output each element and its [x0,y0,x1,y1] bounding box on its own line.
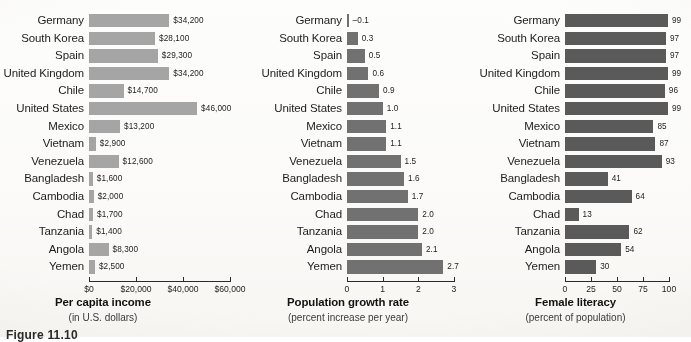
bar-literacy-spain [565,49,666,62]
bar-row: Angola$8,300 [0,241,236,259]
bar-growth-vietnam [347,137,386,150]
bar-literacy-chile [565,84,665,97]
bar-track: 1.5 [347,153,460,171]
bar-track: –0.1 [347,12,460,30]
country-label-south-korea: South Korea [460,30,560,48]
bar-value-label: $13,200 [124,118,154,136]
country-label-venezuela: Venezuela [460,153,560,171]
bar-track: 2.0 [347,206,460,224]
bar-income-bangladesh [89,172,93,185]
bar-growth-chad [347,208,418,221]
bar-row: South Korea$28,100 [0,30,236,48]
bar-growth-united-states [347,102,383,115]
axis-tick-label: 3 [452,284,457,294]
bar-income-chad [89,208,93,221]
bar-growth-bangladesh [347,172,404,185]
bar-value-label: 99 [672,65,681,83]
bar-growth-mexico [347,120,386,133]
bar-income-spain [89,49,158,62]
bar-row: Mexico85 [460,118,691,136]
country-label-south-korea: South Korea [0,30,84,48]
bar-value-label: 13 [583,206,592,224]
bar-growth-tanzania [347,225,418,238]
growth-axis-title: Population growth rate [236,296,460,308]
bar-track: $29,300 [89,47,236,65]
bar-row: United States1.0 [236,100,460,118]
chart-per-capita-income: Germany$34,200South Korea$28,100Spain$29… [0,0,236,337]
bar-row: Chile96 [460,82,691,100]
bar-value-label: 93 [666,153,675,171]
bar-growth-venezuela [347,155,401,168]
axis-tick [454,277,455,282]
bar-row: Venezuela$12,600 [0,153,236,171]
bar-literacy-tanzania [565,225,629,238]
axis-tick [565,277,566,282]
bar-track: $8,300 [89,241,236,259]
bar-value-label: 1.1 [390,118,402,136]
bar-value-label: 2.7 [447,258,459,276]
bar-row: Chile$14,700 [0,82,236,100]
axis-tick [643,277,644,282]
country-label-yemen: Yemen [0,258,84,276]
bar-track: $34,200 [89,65,236,83]
bar-value-label: 30 [600,258,609,276]
bar-row: United Kingdom99 [460,65,691,83]
country-label-united-states: United States [460,100,560,118]
bar-value-label: 54 [625,241,634,259]
country-label-cambodia: Cambodia [460,188,560,206]
bar-value-label: 0.6 [372,65,384,83]
bar-row: Vietnam$2,900 [0,135,236,153]
country-label-cambodia: Cambodia [236,188,342,206]
country-label-spain: Spain [0,47,84,65]
country-label-germany: Germany [0,12,84,30]
axis-tick-label: 2 [416,284,421,294]
country-label-chile: Chile [236,82,342,100]
bar-row: Mexico1.1 [236,118,460,136]
bar-value-label: 41 [612,170,621,188]
bar-row: Tanzania62 [460,223,691,241]
bar-row: Angola2.1 [236,241,460,259]
axis-tick-label: 0 [563,284,568,294]
bar-income-tanzania [89,225,92,238]
bar-row: Vietnam1.1 [236,135,460,153]
bar-row: Chile0.9 [236,82,460,100]
bar-value-label: $1,700 [97,206,123,224]
bar-value-label: $8,300 [113,241,139,259]
bar-literacy-germany [565,14,668,27]
bar-value-label: 1.6 [408,170,420,188]
axis-tick [89,277,90,282]
bar-value-label: 2.0 [422,206,434,224]
bar-literacy-bangladesh [565,172,608,185]
bar-growth-yemen [347,260,443,273]
bar-row: Vietnam87 [460,135,691,153]
bar-literacy-south-korea [565,32,666,45]
bar-track: 0.6 [347,65,460,83]
country-label-germany: Germany [236,12,342,30]
country-label-yemen: Yemen [460,258,560,276]
bar-income-angola [89,243,109,256]
income-axis-title: Per capita income [0,296,236,308]
bar-row: Angola54 [460,241,691,259]
bar-growth-cambodia [347,190,408,203]
bar-row: Chad$1,700 [0,206,236,224]
country-label-vietnam: Vietnam [236,135,342,153]
bar-track: 99 [565,12,691,30]
bar-row: Bangladesh1.6 [236,170,460,188]
bar-value-label: 85 [657,118,666,136]
country-label-united-states: United States [0,100,84,118]
bar-row: Tanzania2.0 [236,223,460,241]
country-label-chad: Chad [236,206,342,224]
bar-growth-angola [347,243,422,256]
axis-tick-label: 1 [380,284,385,294]
bar-track: 64 [565,188,691,206]
bar-row: Germany$34,200 [0,12,236,30]
bar-row: Venezuela1.5 [236,153,460,171]
country-label-chad: Chad [460,206,560,224]
bar-row: Yemen$2,500 [0,258,236,276]
bar-value-label: 87 [659,135,668,153]
bar-track: 13 [565,206,691,224]
bar-track: 41 [565,170,691,188]
axis-line [347,281,454,282]
bar-value-label: 97 [670,47,679,65]
bar-value-label: 0.9 [383,82,395,100]
